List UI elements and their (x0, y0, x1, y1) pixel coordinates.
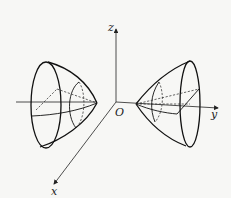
z-axis-label: z (107, 21, 114, 34)
left-mid-ellipse-front (70, 82, 79, 128)
right-sheet (136, 61, 200, 147)
origin-label: O (115, 106, 124, 119)
right-mid-ellipse-front (152, 82, 159, 122)
hyperboloid-diagram: z y x O (0, 0, 231, 198)
y-axis-label: y (210, 108, 218, 121)
left-sheet (31, 62, 97, 148)
left-base-ellipse (31, 62, 61, 148)
right-back-line-1 (136, 89, 199, 104)
x-axis-label: x (51, 185, 58, 198)
left-cross-section (32, 103, 97, 116)
left-lower-edge (40, 103, 97, 147)
diagram-canvas: z y x O (0, 0, 231, 198)
x-axis (54, 102, 116, 184)
left-upper-edge (48, 62, 97, 103)
right-mid-ellipse-back (155, 82, 162, 122)
left-back-line-2 (36, 89, 57, 110)
y-axis-right (116, 102, 218, 108)
